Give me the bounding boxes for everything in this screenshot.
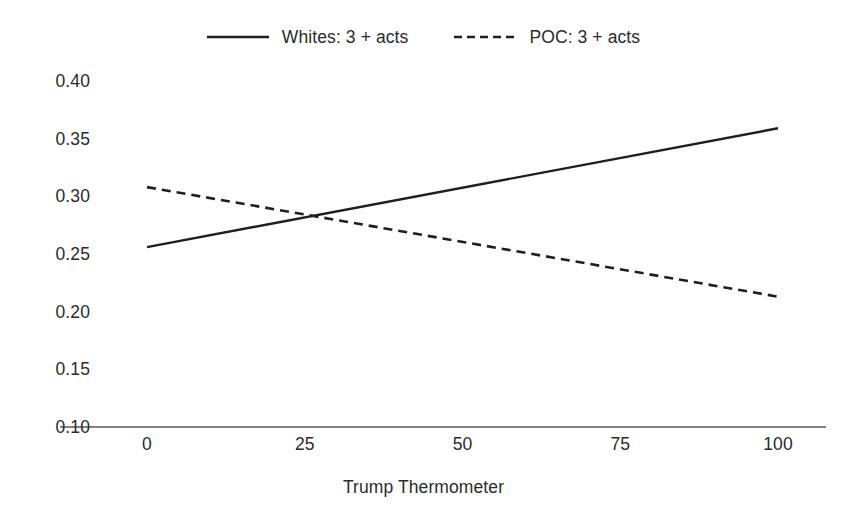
x-tick-label: 25: [295, 434, 315, 455]
x-axis-tick-labels: 0255075100: [0, 0, 847, 521]
x-tick-label: 50: [453, 434, 473, 455]
x-tick-label: 75: [610, 434, 630, 455]
x-tick-label: 100: [763, 434, 793, 455]
x-tick-label: 0: [142, 434, 152, 455]
x-axis-title: Trump Thermometer: [0, 477, 847, 498]
line-chart: Whites: 3 + acts POC: 3 + acts 0.400.350…: [0, 0, 847, 521]
